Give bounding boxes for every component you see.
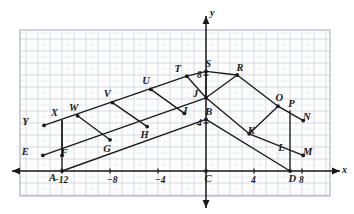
point-label-T: T [174, 64, 180, 75]
point-label-V: V [104, 89, 111, 100]
vertex-dot-A [60, 169, 64, 173]
vertex-dot-R [235, 73, 239, 77]
point-label-D: D [289, 174, 297, 185]
y-axis-label: y [210, 8, 214, 18]
point-label-M: M [303, 147, 312, 158]
point-label-I: I [184, 106, 188, 117]
x-tick-label--8: −8 [107, 176, 118, 186]
point-label-R: R [236, 63, 243, 74]
vertex-dot-C [204, 169, 208, 173]
x-tick-label-4: 4 [251, 176, 256, 186]
point-label-W: W [69, 103, 78, 114]
point-label-N: N [303, 112, 311, 123]
vertex-dot-W [76, 114, 80, 118]
vertex-dot-G [108, 138, 112, 142]
point-label-J: J [193, 89, 198, 100]
point-label-S: S [205, 59, 211, 70]
point-label-Y: Y [22, 117, 28, 128]
point-label-F: F [61, 148, 68, 159]
point-label-K: K [248, 126, 255, 137]
vertex-dot-J [204, 96, 208, 100]
point-label-L: L [278, 143, 284, 154]
coordinate-geometry-figure: YXWVUTSROPNMLDKBCJIHGFEA−12−8−44848xy [0, 0, 354, 214]
vertex-dot-T [185, 74, 189, 78]
point-label-B: B [205, 107, 212, 118]
y-tick-label-8: 8 [197, 71, 202, 81]
vertex-dot-Y [42, 124, 46, 128]
vertex-dot-U [149, 88, 153, 92]
vertex-dot-B [204, 118, 208, 122]
point-label-E: E [22, 147, 29, 158]
vertex-dot-V [111, 101, 115, 105]
y-axis-arrow-down [203, 200, 210, 208]
x-axis-label: x [342, 165, 347, 175]
x-tick-label--4: −4 [155, 176, 166, 186]
y-tick-label-4: 4 [197, 119, 202, 129]
point-label-U: U [142, 76, 150, 87]
point-label-H: H [140, 130, 148, 141]
x-axis-arrow-right [332, 168, 340, 175]
point-label-X: X [51, 108, 58, 119]
point-label-G: G [103, 144, 111, 155]
x-tick-label--12: −12 [53, 176, 68, 186]
vertex-dot-H [145, 125, 149, 129]
x-tick-label-8: 8 [299, 176, 304, 186]
point-label-P: P [288, 99, 294, 110]
vertex-dot-E [41, 154, 45, 158]
vertex-dot-D [288, 169, 292, 173]
point-label-O: O [276, 93, 284, 104]
point-label-C: C [205, 174, 212, 185]
vertex-dot-S [204, 70, 208, 74]
y-axis-arrow-up [203, 16, 210, 24]
vertex-dot-O [276, 104, 280, 108]
x-axis-arrow-left [12, 168, 20, 175]
